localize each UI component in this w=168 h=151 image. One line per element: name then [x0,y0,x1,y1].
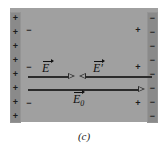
charge-sign-minus: − [150,84,155,93]
charge-sign-minus: − [150,14,155,23]
induced-charges-right: + + + [133,26,143,108]
charge-sign-plus: + [13,28,18,37]
vector-label-E-zero-text: E0 [73,93,84,108]
induced-charge-minus: − [26,99,31,108]
charge-sign-minus: − [150,42,155,51]
charge-sign-minus: − [150,28,155,37]
arrowhead-Eprime-left [79,73,86,79]
induced-charge-plus: + [135,26,140,35]
field-arrow-row-lower [28,85,148,94]
charge-sign-plus: + [13,70,18,79]
induced-charge-minus: − [26,26,31,35]
vector-label-E-text: E [42,62,49,74]
charge-sign-plus: + [13,42,18,51]
plate-left-charge-signs: + + + + + + + + [10,14,21,121]
vector-label-E: E [42,58,49,74]
charge-sign-plus: + [13,14,18,23]
charge-sign-plus: + [13,112,18,121]
arrow-shaft-Eprime [86,76,152,78]
induced-charges-left: − − − [24,26,34,108]
physics-figure-capacitor-dielectric: + + + + + + + + − − − − − − − − − − − + … [0,0,168,151]
charge-sign-plus: + [13,84,18,93]
arrowhead-E-right [68,73,75,79]
charge-sign-plus: + [13,98,18,107]
charge-sign-plus: + [13,56,18,65]
induced-charge-plus: + [135,99,140,108]
plate-right-charge-signs: − − − − − − − − [147,14,158,121]
vector-arrow-overbar-icon [93,58,103,63]
charge-sign-minus: − [150,98,155,107]
arrowhead-E0-right [138,86,145,92]
arrow-shaft-E [28,76,68,78]
vector-label-E-prime-text: E′ [93,62,103,74]
induced-charge-plus: + [135,63,140,72]
figure-caption: (c) [0,130,168,142]
charge-sign-minus: − [150,56,155,65]
charge-sign-minus: − [150,112,155,121]
vector-label-E-prime: E′ [93,58,103,74]
induced-charge-minus: − [26,63,31,72]
vector-arrow-overbar-icon [73,89,84,94]
vector-arrow-overbar-icon [42,58,49,63]
vector-label-E-zero: E0 [73,89,84,108]
